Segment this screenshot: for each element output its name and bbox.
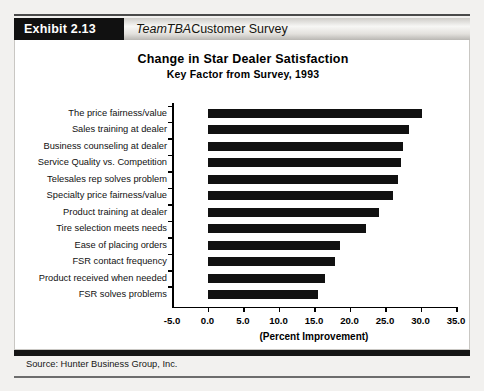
bar [208,125,410,134]
x-axis-tick-label: 35.0 [447,315,466,326]
bar [208,175,399,184]
x-axis-tick-label: 25.0 [376,315,395,326]
exhibit-header: Exhibit 2.13 TeamTBA Customer Survey [14,18,470,40]
exhibit-title: TeamTBA Customer Survey [124,18,470,40]
category-label: Tire selection meets needs [56,223,167,233]
top-divider [14,14,470,16]
footer-divider [14,350,470,356]
x-axis-tick-label: 10.0 [269,315,288,326]
category-label: Product received when needed [39,273,167,283]
bar [208,142,404,151]
x-axis-tick [385,307,387,312]
chart-subtitle: Key Factor from Survey, 1993 [15,68,471,80]
chart-title: Change in Star Dealer Satisfaction [15,52,471,66]
bottom-divider [14,376,470,378]
category-tick [168,171,173,173]
plot-area: -5.00.05.010.015.020.025.030.035.0 (Perc… [172,103,456,338]
category-label: The price fairness/value [68,108,167,118]
exhibit-page: Exhibit 2.13 TeamTBA Customer Survey Cha… [0,0,484,391]
x-axis-tick [421,307,423,312]
category-label: FSR contact frequency [72,256,167,266]
exhibit-label: Exhibit 2.13 [14,18,124,40]
category-tick [168,155,173,157]
category-label: Telesales rep solves problem [47,174,167,184]
category-tick [168,138,173,140]
exhibit-title-rest: Customer Survey [191,22,288,36]
category-label: Service Quality vs. Competition [38,157,167,167]
x-axis-tick-label: -5.0 [164,315,181,326]
category-label: Product training at dealer [63,207,167,217]
category-tick [168,286,173,288]
category-label: Specialty price fairness/value [47,190,167,200]
bar [208,109,422,118]
x-axis-tick [208,307,210,312]
x-axis-tick [314,307,316,312]
x-axis-tick-label: 30.0 [411,315,430,326]
x-axis-tick [350,307,352,312]
category-label: Sales training at dealer [72,124,167,134]
bar [208,274,325,283]
category-tick [168,204,173,206]
source-note: Source: Hunter Business Group, Inc. [26,359,177,369]
x-axis-title: (Percent Improvement) [172,331,456,342]
x-axis-tick-label: 20.0 [340,315,359,326]
bar [208,191,393,200]
category-label: Ease of placing orders [74,240,167,250]
bar [208,257,335,266]
bar [208,158,402,167]
category-tick [168,270,173,272]
x-axis-tick-label: 5.0 [236,315,249,326]
category-tick [168,122,173,124]
x-axis-tick [456,307,458,312]
category-axis-labels: The price fairness/valueSales training a… [15,103,167,313]
bar [208,290,318,299]
bar [208,208,380,217]
chart-panel: Change in Star Dealer Satisfaction Key F… [14,40,470,350]
category-tick [168,188,173,190]
category-tick [168,106,173,108]
bar [208,224,366,233]
x-axis-tick-label: 0.0 [201,315,214,326]
x-axis-tick [243,307,245,312]
bar [208,241,341,250]
x-axis-tick-label: 15.0 [305,315,324,326]
category-tick [168,254,173,256]
category-label: Business counseling at dealer [43,141,167,151]
category-label: FSR solves problems [79,289,167,299]
brand-name: TeamTBA [136,22,191,36]
category-tick [168,237,173,239]
category-tick [168,221,173,223]
x-axis-tick [279,307,281,312]
